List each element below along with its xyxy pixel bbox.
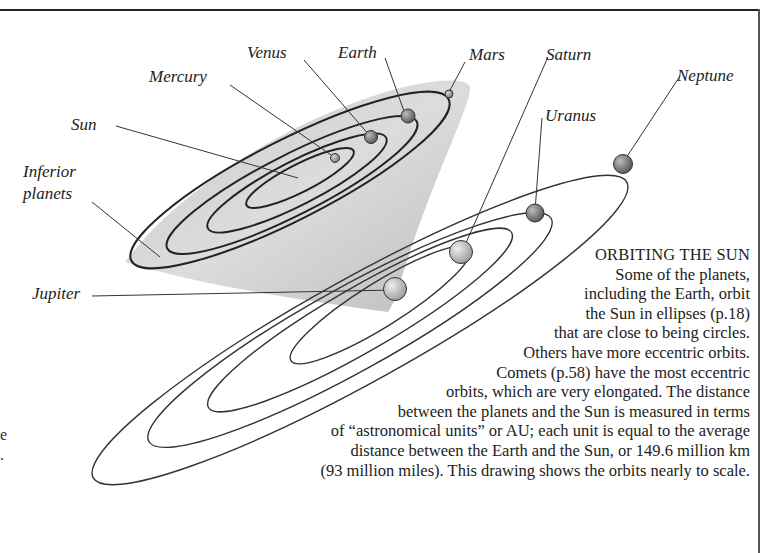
label-mercury: Mercury (149, 68, 207, 86)
caption-line: that are close to being circles. (320, 323, 750, 343)
caption-line: (93 million miles). This drawing shows t… (320, 461, 750, 481)
mars-planet (445, 90, 453, 98)
caption-line: Some of the planets, (320, 265, 750, 285)
label-saturn: Saturn (546, 46, 591, 64)
label-inferior-planets-line1: Inferior (23, 163, 76, 181)
label-mars: Mars (469, 46, 505, 64)
label-earth: Earth (338, 44, 377, 62)
left-column-fragment: e (0, 426, 7, 444)
label-jupiter: Jupiter (32, 285, 80, 303)
venus-planet (365, 131, 378, 144)
caption-line: orbits, which are very elongated. The di… (320, 382, 750, 402)
caption-line: of “astronomical units” or AU; each unit… (320, 421, 750, 441)
caption-line: distance between the Earth and the Sun, … (320, 441, 750, 461)
caption-line: the Sun in ellipses (p.18) (320, 304, 750, 324)
neptune-planet (614, 155, 633, 174)
left-column-fragment: . (0, 446, 4, 464)
caption-title: ORBITING THE SUN (320, 245, 750, 265)
caption-line: including the Earth, orbit (320, 284, 750, 304)
label-inferior-planets-line2: planets (23, 185, 72, 203)
label-neptune: Neptune (677, 67, 734, 85)
caption-line: Others have more eccentric orbits. (320, 343, 750, 363)
label-uranus: Uranus (545, 107, 596, 125)
label-venus: Venus (247, 44, 287, 62)
mercury-planet (331, 154, 340, 163)
label-sun: Sun (71, 116, 97, 134)
caption-orbiting-the-sun: ORBITING THE SUN Some of the planets, in… (320, 245, 750, 480)
uranus-planet (526, 204, 544, 222)
caption-line: between the planets and the Sun is measu… (320, 402, 750, 422)
earth-planet (401, 109, 415, 123)
caption-line: Comets (p.58) have the most eccentric (320, 363, 750, 383)
